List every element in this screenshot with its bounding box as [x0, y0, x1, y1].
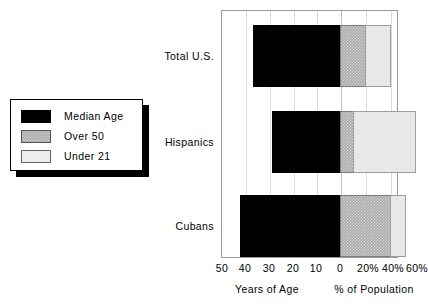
bar-segment-over-50[interactable]	[340, 111, 354, 173]
legend: Median Age Over 50 Under 21	[10, 99, 143, 171]
legend-item-median-age[interactable]: Median Age	[11, 106, 142, 126]
tick-label-40: 40	[239, 262, 251, 274]
tick-label-20: 20	[287, 262, 299, 274]
tick-label-20pct: 20%	[357, 262, 379, 274]
tick-label-50: 50	[216, 262, 228, 274]
bar-segment-over-50[interactable]	[340, 25, 366, 87]
bar-segment-under-21[interactable]	[365, 25, 391, 87]
tick-label-10: 10	[310, 262, 322, 274]
legend-item-over-50[interactable]: Over 50	[11, 126, 142, 146]
bar-group-total-us	[221, 25, 398, 87]
tick-label-40pct: 40%	[382, 262, 404, 274]
legend-label-median-age: Median Age	[64, 110, 123, 122]
legend-swatch-over-50	[21, 130, 51, 143]
category-label-total-us: Total U.S.	[164, 50, 214, 62]
bar-segment-under-21[interactable]	[353, 111, 416, 173]
bar-segment-median-age[interactable]	[272, 111, 341, 173]
legend-label-over-50: Over 50	[64, 130, 104, 142]
tick-label-0: 0	[337, 262, 343, 274]
tick-label-30: 30	[263, 262, 275, 274]
tick-label-60pct: 60%	[406, 262, 428, 274]
category-label-cubans: Cubans	[175, 220, 214, 232]
bar-segment-over-50[interactable]	[340, 195, 391, 257]
axis-title-pct-population: % of Population	[334, 283, 414, 295]
category-label-hispanics: Hispanics	[165, 136, 214, 148]
legend-label-under-21: Under 21	[64, 150, 110, 162]
bar-segment-under-21[interactable]	[390, 195, 406, 257]
bar-group-cubans	[221, 195, 398, 257]
legend-item-under-21[interactable]: Under 21	[11, 146, 142, 166]
legend-swatch-median-age	[21, 110, 51, 123]
axis-title-years-of-age: Years of Age	[235, 283, 299, 295]
bar-segment-median-age[interactable]	[240, 195, 341, 257]
legend-swatch-under-21	[21, 150, 51, 163]
bar-group-hispanics	[221, 111, 398, 173]
bar-segment-median-age[interactable]	[253, 25, 341, 87]
